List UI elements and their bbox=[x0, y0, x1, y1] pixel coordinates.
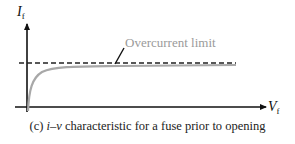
iv-curve bbox=[28, 65, 236, 111]
figure-caption: (c) i–v characteristic for a fuse prior … bbox=[0, 119, 295, 134]
y-axis-label: If bbox=[16, 4, 25, 21]
overcurrent-limit-label: Overcurrent limit bbox=[125, 35, 216, 50]
annotation-leader-line bbox=[115, 48, 124, 64]
x-axis-label: Vf bbox=[268, 99, 280, 116]
